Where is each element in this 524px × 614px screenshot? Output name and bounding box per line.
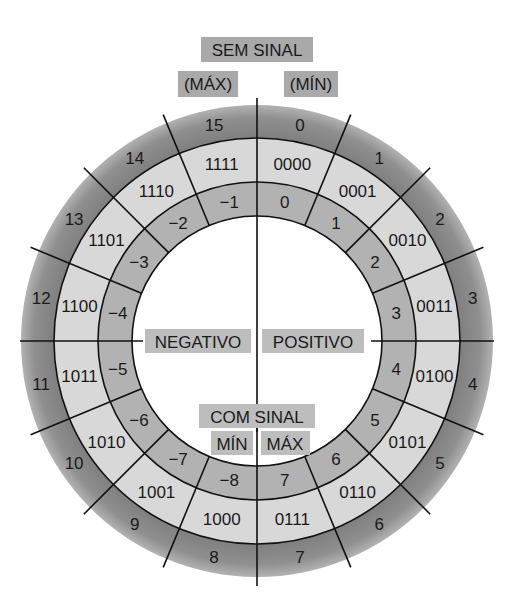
binary-value-label: 0000 — [273, 155, 311, 174]
binary-value-label: 1100 — [61, 297, 98, 316]
signed-value-label: 2 — [370, 253, 379, 272]
signed-value-label: −7 — [168, 450, 187, 469]
signed-value-label: 7 — [280, 471, 289, 490]
binary-value-label: 1101 — [88, 231, 125, 250]
unsigned-title-box: SEM SINAL — [201, 37, 313, 62]
binary-value-label: 0101 — [389, 433, 427, 452]
unsigned-value-label: 10 — [65, 454, 84, 473]
signed-value-label: −5 — [108, 360, 127, 379]
unsigned-value-label: 9 — [130, 515, 139, 534]
binary-value-label: 0110 — [339, 483, 376, 502]
unsigned-value-label: 5 — [435, 454, 444, 473]
unsigned-value-label: 11 — [32, 375, 50, 394]
unsigned-value-label: 13 — [65, 210, 84, 229]
unsigned-value-label: 7 — [295, 548, 304, 567]
unsigned-title: SEM SINAL — [212, 41, 303, 60]
unsigned-value-label: 1 — [374, 149, 383, 168]
unsigned-value-label: 2 — [435, 210, 444, 229]
signed-title: COM SINAL — [210, 408, 304, 427]
signed-min-label: MÍN — [216, 435, 247, 454]
binary-value-label: 0111 — [275, 510, 310, 529]
binary-value-label: 0001 — [339, 182, 377, 201]
signed-value-label: 4 — [392, 360, 401, 379]
signed-value-label: −2 — [168, 214, 187, 233]
unsigned-value-label: 14 — [125, 149, 144, 168]
signed-min-box: MÍN — [211, 431, 253, 455]
unsigned-value-label: 15 — [205, 116, 224, 135]
signed-value-label: 0 — [280, 193, 289, 212]
signed-value-label: −6 — [129, 411, 148, 430]
negative-label: NEGATIVO — [155, 333, 242, 352]
binary-value-label: 1011 — [61, 367, 98, 386]
binary-value-label: 1111 — [205, 155, 239, 174]
binary-value-label: 1010 — [88, 433, 126, 452]
unsigned-value-label: 6 — [374, 515, 383, 534]
unsigned-value-label: 3 — [468, 289, 477, 308]
binary-value-label: 0010 — [389, 231, 427, 250]
negative-box: NEGATIVO — [145, 329, 251, 353]
signed-value-label: −3 — [129, 253, 148, 272]
signed-value-label: −1 — [220, 193, 239, 212]
positive-box: POSITIVO — [262, 329, 364, 353]
signed-value-label: 1 — [331, 214, 340, 233]
signed-value-label: 6 — [331, 450, 340, 469]
signed-title-box: COM SINAL — [199, 404, 315, 428]
signed-value-label: 3 — [392, 304, 401, 323]
signed-value-label: −8 — [220, 471, 239, 490]
binary-value-label: 1000 — [203, 510, 241, 529]
positive-label: POSITIVO — [273, 333, 353, 352]
signed-max-label: MÁX — [267, 435, 304, 454]
unsigned-min-box: (MÍN) — [284, 71, 338, 97]
binary-value-label: 1110 — [139, 182, 174, 201]
unsigned-value-label: 4 — [468, 375, 477, 394]
unsigned-value-label: 12 — [32, 289, 51, 308]
signed-max-box: MÁX — [261, 431, 310, 455]
unsigned-max-label: (MÁX) — [184, 75, 232, 94]
unsigned-value-label: 8 — [209, 548, 218, 567]
signed-value-label: −4 — [108, 304, 127, 323]
signed-value-label: 5 — [370, 411, 379, 430]
number-circle-diagram: 0000001000112001023001134010045010156011… — [0, 0, 524, 614]
binary-value-label: 0100 — [416, 367, 454, 386]
unsigned-value-label: 0 — [295, 116, 304, 135]
binary-value-label: 1001 — [137, 483, 175, 502]
unsigned-max-box: (MÁX) — [178, 71, 238, 97]
unsigned-min-label: (MÍN) — [290, 75, 332, 94]
binary-value-label: 0011 — [416, 297, 453, 316]
